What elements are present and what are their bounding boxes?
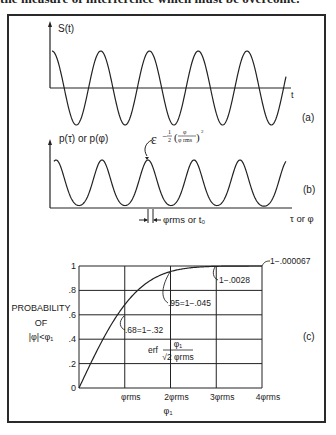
annotation-000067: 1−.000067 <box>262 256 311 266</box>
y-tick-label: .8 <box>68 285 76 295</box>
leader-line <box>213 267 218 280</box>
inner-den: φ rms <box>178 137 193 143</box>
y-axis-label-line1: PROBABILITY <box>11 303 70 313</box>
exponent-power: 2 <box>201 129 204 134</box>
panel-label: (b) <box>303 184 315 195</box>
annotation-text: 1−.000067 <box>270 256 311 266</box>
panel-b: p(τ) or p(φ) ε − 1 2 ( φ φ rms ) 2 φrms … <box>48 129 315 225</box>
gaussian-formula: ε − 1 2 ( φ φ rms ) 2 <box>145 129 204 160</box>
rms-width-marker: φrms or t₀ <box>139 209 205 225</box>
panel-c: 0.2.4.6.81 φrms2φrms3φrms4φrms PROBABILI… <box>11 256 314 416</box>
y-axis-arrow-icon <box>48 139 52 145</box>
density-curve <box>54 160 286 206</box>
annotation-0028: 1−.0028 <box>213 267 250 285</box>
annotation-text: .68=1−.32 <box>125 325 164 335</box>
arrow-left-icon <box>153 218 157 222</box>
y-axis-label-line2: OF <box>35 318 48 328</box>
erf-numerator: φ₁ <box>174 339 183 349</box>
annotation-text: .95=1−.045 <box>168 298 211 308</box>
x-axis-label: φ₁ <box>164 406 173 416</box>
y-tick-label: 1 <box>71 261 76 271</box>
annotation-068: .68=1−.32 <box>120 316 163 335</box>
x-tick-label: 4φrms <box>256 392 280 402</box>
frac-num: 1 <box>168 129 171 135</box>
paren-close: ) <box>196 131 200 144</box>
panel-a: S(t) t (a) <box>48 21 314 125</box>
annotation-text: 1−.0028 <box>219 275 250 285</box>
y-tick-label: .2 <box>68 359 76 369</box>
panel-label: (a) <box>302 112 314 123</box>
panel-label: (c) <box>303 331 315 342</box>
y-tick-labels: 0.2.4.6.81 <box>68 261 76 393</box>
exp-minus: − <box>162 131 167 141</box>
width-marker-label: φrms or t₀ <box>163 214 205 225</box>
x-axis-label: τ or φ <box>290 213 314 224</box>
leader-line <box>262 261 270 266</box>
x-tick-label: 3φrms <box>210 392 234 402</box>
y-axis-arrow-icon <box>48 21 52 27</box>
y-axis-label: p(τ) or p(φ) <box>59 133 108 144</box>
epsilon-symbol: ε <box>151 132 157 147</box>
y-tick-label: 0 <box>71 383 76 393</box>
figure-canvas: S(t) t (a) p(τ) or p(φ) ε − 1 2 ( φ φ rm… <box>0 0 336 435</box>
frac-den: 2 <box>168 137 171 143</box>
y-tick-label: .4 <box>68 334 76 344</box>
x-tick-label: 2φrms <box>164 392 188 402</box>
y-axis-label-line3: |φ|<φ₁ <box>29 332 54 342</box>
x-tick-labels: φrms2φrms3φrms4φrms <box>121 392 280 402</box>
arrow-right-icon <box>144 218 148 222</box>
erf-denominator: √2 φrms <box>162 352 193 362</box>
erf-text: erf <box>148 345 159 355</box>
x-axis-label: t <box>291 90 294 100</box>
x-tick-label: φrms <box>121 392 141 402</box>
y-axis-label: S(t) <box>58 23 74 34</box>
inner-num: φ <box>183 129 187 135</box>
